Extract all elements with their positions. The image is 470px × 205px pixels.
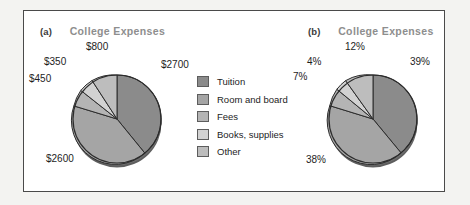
legend-label-fees: Fees <box>217 111 238 122</box>
chart-legend: Tuition Room and board Fees Books, suppl… <box>197 73 288 161</box>
panel-b: (b) College Expenses 39% 38% 7% <box>292 11 446 191</box>
legend-swatch-books-supplies <box>197 129 209 140</box>
panel-a: (a) College Expenses $2700 <box>24 11 292 191</box>
pie-a-label-tuition: $2700 <box>161 59 189 70</box>
legend-swatch-fees <box>197 111 209 122</box>
legend-item-books-supplies: Books, supplies <box>197 126 288 144</box>
legend-item-tuition: Tuition <box>197 73 288 91</box>
pie-a-label-room-and-board: $2600 <box>46 153 74 164</box>
pie-chart-b <box>292 11 446 193</box>
legend-item-fees: Fees <box>197 108 288 126</box>
pie-b-label-room-and-board: 38% <box>306 154 326 165</box>
pie-b-label-tuition: 39% <box>410 56 430 67</box>
legend-swatch-other <box>197 146 209 157</box>
pie-b-label-other: 12% <box>345 41 365 52</box>
legend-swatch-room-and-board <box>197 94 209 105</box>
legend-label-other: Other <box>217 146 241 157</box>
legend-item-room-and-board: Room and board <box>197 91 288 109</box>
pie-a-label-books-supplies: $350 <box>44 56 66 67</box>
legend-swatch-tuition <box>197 76 209 87</box>
pie-b-label-books-supplies: 4% <box>307 56 321 67</box>
pie-b-label-fees: 7% <box>293 71 307 82</box>
figure-frame: (a) College Expenses $2700 <box>23 10 445 192</box>
legend-label-room-and-board: Room and board <box>217 94 288 105</box>
legend-label-books-supplies: Books, supplies <box>217 129 284 140</box>
legend-item-other: Other <box>197 143 288 161</box>
figure-root: (a) College Expenses $2700 <box>0 0 470 205</box>
pie-a-label-other: $800 <box>86 41 108 52</box>
legend-label-tuition: Tuition <box>217 76 245 87</box>
pie-a-label-fees: $450 <box>29 73 51 84</box>
